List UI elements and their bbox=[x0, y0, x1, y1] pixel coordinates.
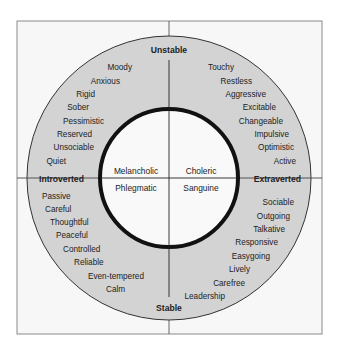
trait-word: Calm bbox=[106, 285, 125, 294]
trait-word: Moody bbox=[107, 63, 132, 72]
temperament-choleric: Choleric bbox=[186, 166, 217, 176]
temperament-melancholic: Melancholic bbox=[114, 166, 158, 176]
trait-word: Pessimistic bbox=[63, 117, 104, 126]
trait-word: Touchy bbox=[208, 63, 235, 72]
axis-label-introverted: Introverted bbox=[39, 174, 84, 184]
trait-word: Leadership bbox=[184, 292, 225, 301]
trait-word: Talkative bbox=[253, 225, 285, 234]
trait-word: Anxious bbox=[91, 77, 120, 86]
trait-word: Controlled bbox=[63, 245, 101, 254]
trait-word: Active bbox=[274, 157, 297, 166]
trait-word: Sociable bbox=[263, 198, 295, 207]
trait-word: Reliable bbox=[74, 258, 104, 267]
trait-word: Rigid bbox=[76, 90, 95, 99]
axis-label-stable: Stable bbox=[156, 303, 182, 313]
trait-word: Responsive bbox=[235, 238, 278, 247]
trait-word: Outgoing bbox=[257, 212, 291, 221]
trait-word: Excitable bbox=[243, 103, 277, 112]
temperament-diagram: Unstable Stable Introverted Extraverted … bbox=[0, 0, 338, 347]
trait-word: Changeable bbox=[239, 117, 284, 126]
trait-word: Unsociable bbox=[53, 143, 94, 152]
trait-word: Thoughtful bbox=[50, 218, 89, 227]
trait-word: Quiet bbox=[46, 157, 66, 166]
trait-word: Peaceful bbox=[56, 231, 88, 240]
trait-word: Impulsive bbox=[254, 130, 289, 139]
trait-word: Aggressive bbox=[225, 90, 266, 99]
trait-word: Passive bbox=[42, 192, 71, 201]
trait-word: Optimistic bbox=[258, 143, 294, 152]
trait-word: Easygoing bbox=[232, 252, 271, 261]
trait-word: Carefree bbox=[213, 279, 245, 288]
trait-word: Careful bbox=[45, 205, 72, 214]
trait-word: Restless bbox=[221, 77, 252, 86]
trait-word: Sober bbox=[67, 103, 89, 112]
temperament-phlegmatic: Phlegmatic bbox=[115, 183, 156, 193]
axis-label-unstable: Unstable bbox=[151, 45, 188, 55]
trait-word: Reserved bbox=[57, 130, 92, 139]
trait-word: Lively bbox=[229, 265, 251, 274]
axis-label-extraverted: Extraverted bbox=[254, 174, 301, 184]
trait-word: Even-tempered bbox=[88, 272, 144, 281]
temperament-sanguine: Sanguine bbox=[183, 183, 219, 193]
